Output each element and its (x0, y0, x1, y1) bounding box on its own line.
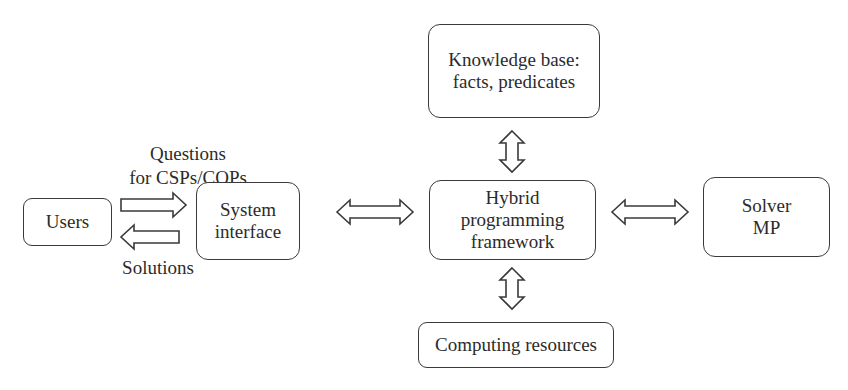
hybrid-line2: programming (461, 209, 564, 231)
users-label: Users (46, 211, 89, 233)
system-interface-line1: System (220, 199, 276, 221)
hybrid-framework-node: Hybrid programming framework (429, 180, 596, 260)
hybrid-line3: framework (471, 231, 554, 253)
users-node: Users (23, 198, 112, 246)
system-interface-line2: interface (215, 221, 281, 243)
solutions-label: Solutions (108, 257, 208, 279)
knowledge-base-node: Knowledge base: facts, predicates (428, 24, 600, 118)
system-interface-node: System interface (196, 182, 300, 260)
arrow-left-icon (121, 225, 179, 249)
questions-label-line1: Questions (118, 143, 258, 165)
computing-resources-node: Computing resources (418, 322, 614, 368)
solver-line1: Solver (742, 195, 792, 217)
double-arrow-vertical-icon (500, 131, 524, 172)
double-arrow-horizontal-icon (337, 200, 413, 224)
computing-resources-label: Computing resources (435, 334, 597, 356)
hybrid-line1: Hybrid (486, 187, 540, 209)
solver-node: Solver MP (703, 177, 830, 257)
double-arrow-vertical-icon (500, 268, 524, 309)
knowledge-base-line1: Knowledge base: (448, 49, 579, 71)
arrow-right-icon (121, 193, 186, 217)
double-arrow-horizontal-icon (612, 200, 688, 224)
solver-line2: MP (753, 217, 780, 239)
knowledge-base-line2: facts, predicates (453, 71, 575, 93)
